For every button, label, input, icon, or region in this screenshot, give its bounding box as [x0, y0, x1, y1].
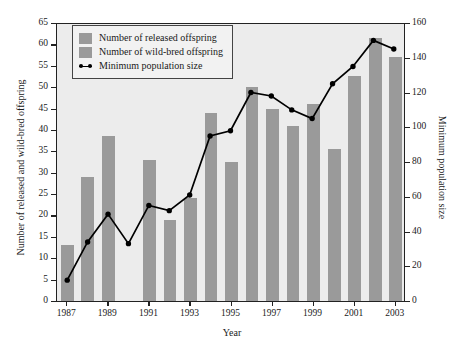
line-marker-1989: [105, 211, 110, 216]
line-marker-2000: [330, 81, 335, 86]
y-tick-25: [51, 194, 56, 195]
line-marker-1992: [167, 208, 172, 213]
y2-tick-80: [405, 162, 410, 163]
y-tick-label-25: 25: [0, 189, 48, 199]
line-marker-1987: [65, 277, 70, 282]
y2-tick-0: [405, 301, 410, 302]
x-tick-1999: [313, 301, 314, 306]
y2-tick-160: [405, 23, 410, 24]
y-tick-label-60: 60: [0, 39, 48, 49]
y-tick-10: [51, 258, 56, 259]
line-marker-2002: [371, 38, 376, 43]
legend: Number of released offspring Number of w…: [72, 25, 233, 79]
legend-swatch-released-icon: [79, 33, 92, 44]
x-tick-1993: [189, 301, 190, 306]
legend-item-minimum-population: Minimum population size: [79, 59, 223, 73]
y-tick-label-15: 15: [0, 232, 48, 242]
x-tick-label-1989: 1989: [98, 309, 117, 319]
y-tick-50: [51, 87, 56, 88]
y2-tick-label-40: 40: [412, 227, 422, 237]
x-tick-2003: [395, 301, 396, 306]
line-marker-1998: [289, 107, 294, 112]
line-marker-2003: [391, 46, 396, 51]
y2-tick-label-100: 100: [412, 122, 426, 132]
y-tick-label-5: 5: [0, 275, 48, 285]
x-tick-1991: [148, 301, 149, 306]
line-marker-1988: [85, 239, 90, 244]
y-tick-label-65: 65: [0, 18, 48, 28]
line-marker-1991: [146, 203, 151, 208]
y-tick-label-35: 35: [0, 146, 48, 156]
y-tick-15: [51, 237, 56, 238]
y-tick-label-50: 50: [0, 82, 48, 92]
x-tick-1995: [231, 301, 232, 306]
y2-tick-40: [405, 232, 410, 233]
y-tick-65: [51, 23, 56, 24]
y2-tick-label-0: 0: [412, 296, 417, 306]
y2-tick-label-20: 20: [412, 261, 422, 271]
y-tick-55: [51, 66, 56, 67]
x-axis-title: Year: [0, 327, 464, 338]
line-marker-1995: [228, 128, 233, 133]
y-tick-40: [51, 130, 56, 131]
line-marker-2001: [350, 64, 355, 69]
y-tick-20: [51, 215, 56, 216]
line-marker-1990: [126, 241, 131, 246]
y-tick-45: [51, 109, 56, 110]
x-tick-label-1987: 1987: [57, 309, 76, 319]
legend-line-marker-icon: [79, 61, 92, 72]
y2-axis-title: Minimum population size: [437, 43, 448, 293]
legend-label-wild-bred: Number of wild-bred offspring: [99, 47, 223, 57]
y-tick-label-45: 45: [0, 104, 48, 114]
y-tick-35: [51, 151, 56, 152]
x-tick-label-1997: 1997: [262, 309, 281, 319]
line-marker-1993: [187, 192, 192, 197]
y2-tick-label-160: 160: [412, 18, 426, 28]
y2-tick-140: [405, 58, 410, 59]
legend-swatch-wild-bred-icon: [79, 47, 92, 58]
y2-tick-120: [405, 93, 410, 94]
x-tick-label-1999: 1999: [303, 309, 322, 319]
y-tick-label-55: 55: [0, 61, 48, 71]
x-tick-1987: [66, 301, 67, 306]
y-tick-label-40: 40: [0, 125, 48, 135]
y2-tick-label-120: 120: [412, 88, 426, 98]
legend-label-minimum-population: Minimum population size: [99, 61, 202, 71]
y-tick-5: [51, 280, 56, 281]
line-marker-1999: [309, 116, 314, 121]
y2-tick-label-80: 80: [412, 157, 422, 167]
y2-tick-100: [405, 127, 410, 128]
y-tick-label-30: 30: [0, 168, 48, 178]
y-tick-label-0: 0: [0, 296, 48, 306]
legend-item-wild-bred: Number of wild-bred offspring: [79, 45, 223, 59]
y2-tick-label-140: 140: [412, 53, 426, 63]
y2-tick-60: [405, 197, 410, 198]
x-tick-label-2003: 2003: [385, 309, 404, 319]
x-tick-2001: [354, 301, 355, 306]
y-tick-0: [51, 301, 56, 302]
y-tick-30: [51, 173, 56, 174]
line-marker-1996: [248, 90, 253, 95]
y-tick-label-10: 10: [0, 253, 48, 263]
x-tick-label-2001: 2001: [344, 309, 363, 319]
legend-item-released: Number of released offspring: [79, 31, 223, 45]
x-tick-label-1993: 1993: [180, 309, 199, 319]
figure: Number of released and wild-bred offspri…: [0, 0, 464, 343]
line-marker-1997: [269, 93, 274, 98]
y2-tick-label-60: 60: [412, 192, 422, 202]
y2-tick-20: [405, 266, 410, 267]
legend-label-released: Number of released offspring: [99, 33, 217, 43]
x-tick-label-1995: 1995: [221, 309, 240, 319]
x-tick-label-1991: 1991: [139, 309, 158, 319]
y-tick-60: [51, 44, 56, 45]
line-marker-1994: [207, 133, 212, 138]
x-tick-1989: [107, 301, 108, 306]
y-tick-label-20: 20: [0, 210, 48, 220]
x-tick-1997: [272, 301, 273, 306]
